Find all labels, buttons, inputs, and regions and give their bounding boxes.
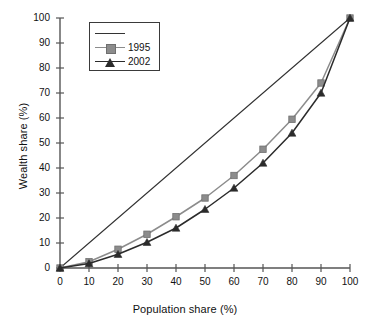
x-axis-tick-label: 0 xyxy=(47,276,73,287)
y-axis-tick-label: 40 xyxy=(26,162,50,173)
data-point-marker-square xyxy=(289,116,295,122)
data-point-marker-square xyxy=(144,231,150,237)
data-point-marker-square xyxy=(202,195,208,201)
data-point-marker-triangle xyxy=(172,224,180,231)
y-axis-tick-label: 50 xyxy=(26,137,50,148)
chart-legend: 1995 2002 xyxy=(89,22,160,71)
x-axis-tick-label: 40 xyxy=(163,276,189,287)
data-point-marker-square xyxy=(231,172,237,178)
legend-line-equality xyxy=(95,33,125,34)
legend-label-2002: 2002 xyxy=(128,57,150,67)
x-axis-title: Population share (%) xyxy=(0,303,370,315)
y-axis-tick-label: 30 xyxy=(26,187,50,198)
legend-swatch-equality xyxy=(95,27,125,41)
legend-swatch-2002 xyxy=(95,55,125,69)
y-axis-tick-label: 20 xyxy=(26,212,50,223)
legend-swatch-1995 xyxy=(95,41,125,55)
x-axis-tick-label: 80 xyxy=(279,276,305,287)
triangle-marker-icon xyxy=(105,58,115,67)
x-axis-tick-label: 60 xyxy=(221,276,247,287)
y-axis-tick-label: 60 xyxy=(26,112,50,123)
data-point-marker-triangle xyxy=(143,238,151,245)
x-axis-tick-label: 50 xyxy=(192,276,218,287)
legend-entry-2002: 2002 xyxy=(90,54,159,69)
square-marker-icon xyxy=(106,44,116,54)
y-axis-tick-label: 70 xyxy=(26,87,50,98)
x-axis-tick-label: 100 xyxy=(337,276,363,287)
y-axis-tick-label: 80 xyxy=(26,62,50,73)
data-point-marker-square xyxy=(260,146,266,152)
x-axis-tick-label: 20 xyxy=(105,276,131,287)
legend-entry-1995: 1995 xyxy=(90,40,159,55)
legend-label-1995: 1995 xyxy=(128,43,150,53)
lorenz-curve-chart: Wealth share (%) Population share (%) 01… xyxy=(0,0,370,327)
legend-entry-equality xyxy=(90,26,159,41)
x-axis-tick-label: 10 xyxy=(76,276,102,287)
x-axis-tick-label: 70 xyxy=(250,276,276,287)
y-axis-tick-label: 10 xyxy=(26,237,50,248)
y-axis-tick-label: 0 xyxy=(26,262,50,273)
x-axis-tick-label: 30 xyxy=(134,276,160,287)
y-axis-tick-label: 90 xyxy=(26,37,50,48)
data-point-marker-triangle xyxy=(317,89,325,96)
x-axis-tick-label: 90 xyxy=(308,276,334,287)
data-point-marker-square xyxy=(173,214,179,220)
y-axis-tick-label: 100 xyxy=(26,12,50,23)
